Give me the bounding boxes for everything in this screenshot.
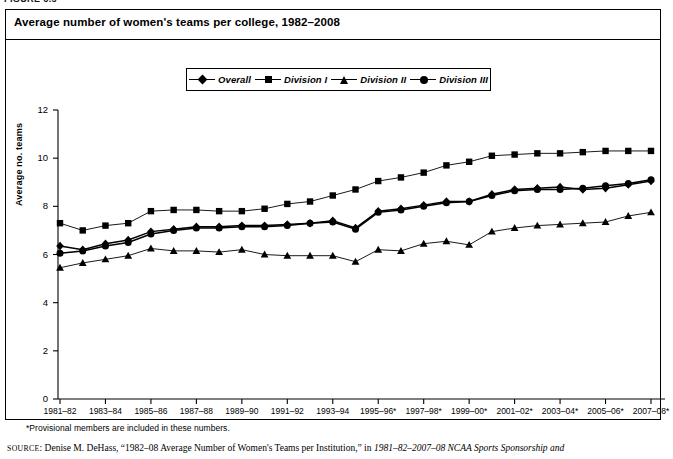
source-italic: 1981–82–2007–08 NCAA Sports Sponsorship … (374, 443, 564, 453)
x-axis-tick: 2001–02* (496, 406, 532, 416)
source-prefix: SOURCE (7, 444, 40, 453)
source-text: : Denise M. DeHass, “1982–08 Average Num… (40, 443, 374, 453)
x-axis-tick: 1991–92 (271, 406, 304, 416)
y-axis-tick: 0 (26, 393, 48, 404)
source-note: SOURCE: Denise M. DeHass, “1982–08 Avera… (7, 443, 564, 453)
x-axis-tick: 1987–88 (180, 406, 213, 416)
series-division-ii (56, 208, 655, 270)
y-axis-tick: 2 (26, 345, 48, 356)
x-axis-tick: 1985–86 (134, 406, 167, 416)
chart-footnote: *Provisional members are included in the… (26, 423, 230, 433)
x-axis-tick: 1997–98* (405, 406, 441, 416)
x-axis-tick: 1981–82 (43, 406, 76, 416)
x-axis-tick: 2003–04* (542, 406, 578, 416)
x-axis-tick: 1995–96* (360, 406, 396, 416)
y-axis-tick: 12 (26, 104, 48, 115)
x-axis-tick: 2007–08* (633, 406, 669, 416)
x-axis-tick: 1983–84 (89, 406, 122, 416)
y-axis-tick: 6 (26, 249, 48, 260)
x-axis-tick: 1993–94 (316, 406, 349, 416)
x-axis-tick: 2005–06* (587, 406, 623, 416)
x-axis-tick: 1989–90 (225, 406, 258, 416)
x-axis-tick: 1999–00* (451, 406, 487, 416)
chart-plot-area: Average no. teams 024681012 1981–821983–… (0, 0, 673, 459)
y-axis-tick: 10 (26, 152, 48, 163)
series-division-i (57, 148, 654, 234)
y-axis-tick: 4 (26, 297, 48, 308)
y-axis-tick: 8 (26, 200, 48, 211)
chart-svg (0, 0, 673, 459)
